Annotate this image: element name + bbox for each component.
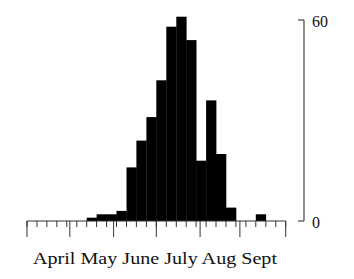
histogram-bar: [166, 27, 176, 221]
histogram-bar: [206, 100, 216, 221]
histogram-bar: [107, 214, 117, 221]
histogram-chart: 60 0 April May June July Aug Sept: [0, 0, 354, 279]
histogram-bar: [146, 117, 156, 221]
histogram-bar: [156, 80, 166, 221]
histogram-bar: [176, 17, 186, 221]
histogram-bar: [226, 208, 236, 221]
histogram-bar: [136, 141, 146, 221]
histogram-bar: [196, 161, 206, 221]
x-axis: [27, 221, 286, 237]
histogram-bar: [127, 167, 137, 221]
x-axis-month-labels: April May June July Aug Sept: [33, 249, 277, 268]
histogram-bar: [97, 214, 107, 221]
histogram-bar: [216, 154, 226, 221]
histogram-bars: [87, 17, 266, 221]
y-tick-label-0: 0: [312, 214, 320, 231]
histogram-bar: [117, 211, 127, 221]
histogram-bar: [256, 214, 266, 221]
y-tick-label-60: 60: [312, 13, 328, 30]
histogram-bar: [186, 40, 196, 221]
y-axis: 60 0: [298, 13, 328, 231]
